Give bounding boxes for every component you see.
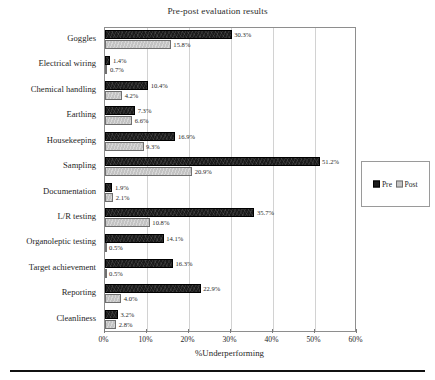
bar-value-label: 22.9% (203, 284, 220, 293)
bar-group: 7.3%6.6% (105, 104, 355, 127)
legend-swatch-icon (396, 181, 403, 188)
bar-value-label: 30.3% (234, 30, 251, 39)
x-tick-mark (314, 329, 315, 333)
bar-value-label: 6.6% (135, 116, 149, 125)
x-tick-label: 40% (265, 335, 279, 344)
y-axis-category-labels: GogglesElectrical wiringChemical handlin… (0, 27, 100, 332)
bar-post (105, 142, 144, 151)
bar-value-label: 0.7% (110, 65, 124, 74)
bar-value-label: 0.5% (109, 269, 123, 278)
x-axis-title: %Underperforming (104, 348, 356, 358)
bar-value-label: 3.2% (120, 310, 134, 319)
bar-pre (105, 310, 118, 319)
bar-pre (105, 30, 232, 39)
bar-pre (105, 234, 164, 243)
x-tick-label: 30% (223, 335, 237, 344)
y-axis-label-reporting: Reporting (62, 281, 96, 304)
y-axis-label-target-achievement: Target achievement (29, 256, 96, 279)
bar-value-label: 2.1% (116, 193, 130, 202)
bar-pre (105, 208, 255, 217)
bar-post (105, 65, 108, 74)
x-tick-mark (230, 329, 231, 333)
bar-rows: 30.3%15.8%1.4%0.7%10.4%4.2%7.3%6.6%16.9%… (105, 28, 355, 331)
bar-group: 10.4%4.2% (105, 79, 355, 102)
bar-value-label: 51.2% (322, 157, 339, 166)
bar-group: 16.9%9.3% (105, 130, 355, 153)
bar-value-label: 4.0% (124, 294, 138, 303)
bar-post (105, 116, 133, 125)
x-tick-label: 60% (349, 335, 363, 344)
bar-post (105, 269, 107, 278)
bar-post (105, 320, 117, 329)
legend-entry-post: Post (396, 180, 418, 189)
y-axis-label-l-r-testing: L/R testing (58, 205, 96, 228)
x-tick-mark (356, 329, 357, 333)
legend-entries: PrePost (362, 180, 429, 189)
bar-value-label: 0.5% (109, 243, 123, 252)
bar-value-label: 10.4% (151, 81, 168, 90)
bar-value-label: 7.3% (138, 106, 152, 115)
bar-post (105, 193, 114, 202)
bar-post (105, 243, 107, 252)
bar-value-label: 2.8% (119, 320, 133, 329)
bar-group: 22.9%4.0% (105, 282, 355, 305)
bar-group: 14.1%0.5% (105, 231, 355, 254)
y-axis-label-housekeeping: Housekeeping (47, 129, 96, 152)
bar-group: 3.2%2.8% (105, 308, 355, 331)
bar-pre (105, 132, 176, 141)
bar-value-label: 4.2% (125, 91, 139, 100)
bar-post (105, 167, 193, 176)
legend-swatch-icon (373, 181, 380, 188)
x-tick-label: 50% (307, 335, 321, 344)
x-tick-label: 0% (98, 335, 108, 344)
chart-figure: Pre-post evaluation results GogglesElect… (0, 0, 435, 380)
bar-value-label: 20.9% (195, 167, 212, 176)
bar-post (105, 40, 171, 49)
x-tick-mark (272, 329, 273, 333)
bar-value-label: 1.9% (115, 183, 129, 192)
bottom-divider (10, 370, 425, 372)
plot-area: 30.3%15.8%1.4%0.7%10.4%4.2%7.3%6.6%16.9%… (104, 27, 356, 332)
bar-group: 1.4%0.7% (105, 53, 355, 76)
bar-pre (105, 81, 149, 90)
bar-pre (105, 56, 111, 65)
y-axis-label-earthing: Earthing (66, 103, 96, 126)
y-axis-label-cleanliness: Cleanliness (56, 307, 96, 330)
bar-pre (105, 157, 320, 166)
bar-group: 35.7%10.8% (105, 206, 355, 229)
bar-group: 1.9%2.1% (105, 181, 355, 204)
bar-pre (105, 183, 113, 192)
x-axis-ticks: 0%10%20%30%40%50%60% (104, 333, 356, 347)
bar-post (105, 294, 122, 303)
bar-value-label: 16.3% (175, 259, 192, 268)
bar-value-label: 9.3% (146, 142, 160, 151)
y-axis-label-sampling: Sampling (63, 154, 96, 177)
y-axis-label-documentation: Documentation (43, 180, 96, 203)
bar-value-label: 1.4% (113, 56, 127, 65)
bar-value-label: 16.9% (178, 132, 195, 141)
y-axis-label-electrical-wiring: Electrical wiring (38, 52, 96, 75)
x-tick-mark (188, 329, 189, 333)
x-tick-mark (146, 329, 147, 333)
bar-value-label: 15.8% (173, 40, 190, 49)
x-tick-mark (104, 329, 105, 333)
legend-label: Pre (382, 180, 392, 189)
chart-title: Pre-post evaluation results (0, 6, 435, 16)
y-axis-label-goggles: Goggles (67, 27, 96, 50)
y-axis-label-organoleptic-testing: Organoleptic testing (26, 230, 96, 253)
bar-pre (105, 284, 201, 293)
legend-label: Post (405, 180, 418, 189)
bar-value-label: 14.1% (166, 234, 183, 243)
bar-value-label: 35.7% (257, 208, 274, 217)
bar-post (105, 218, 150, 227)
x-tick-label: 10% (139, 335, 153, 344)
bar-group: 51.2%20.9% (105, 155, 355, 178)
legend-entry-pre: Pre (373, 180, 392, 189)
bar-value-label: 10.8% (152, 218, 169, 227)
bar-group: 16.3%0.5% (105, 257, 355, 280)
bar-group: 30.3%15.8% (105, 28, 355, 51)
bar-pre (105, 106, 136, 115)
y-axis-label-chemical-handling: Chemical handling (31, 78, 96, 101)
chart-legend: PrePost (361, 161, 430, 207)
bar-post (105, 91, 123, 100)
